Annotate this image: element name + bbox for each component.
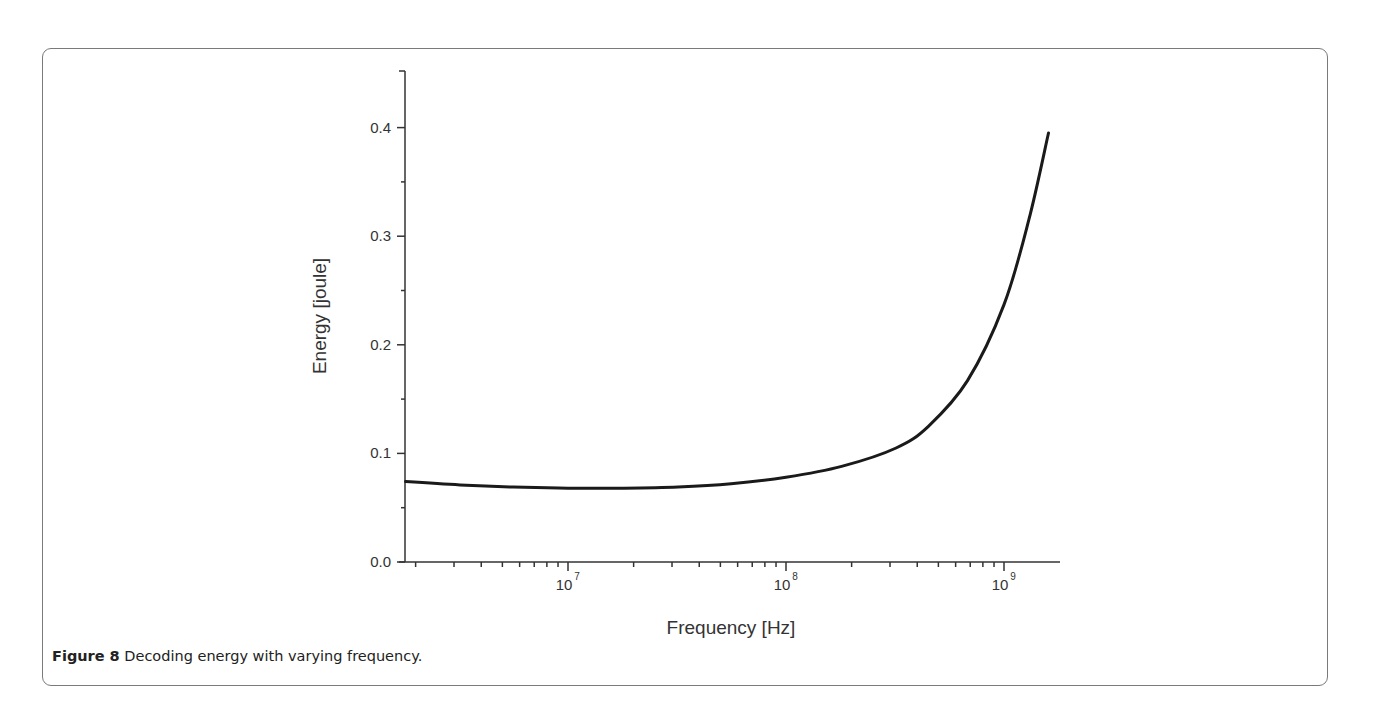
y-tick-label: 0.3 xyxy=(370,227,391,244)
x-tick-exponent: 7 xyxy=(574,571,580,582)
x-tick-label: 10 xyxy=(992,576,1009,593)
x-tick-label: 10 xyxy=(556,576,573,593)
y-tick-label: 0.0 xyxy=(370,553,391,570)
x-axis-title: Frequency [Hz] xyxy=(667,617,796,638)
figure-caption: Figure 8 Decoding energy with varying fr… xyxy=(52,648,422,664)
x-tick-exponent: 9 xyxy=(1010,571,1016,582)
caption-label: Figure 8 xyxy=(52,648,120,664)
y-tick-label: 0.1 xyxy=(370,444,391,461)
y-axis-title: Energy [joule] xyxy=(309,258,330,374)
x-tick-exponent: 8 xyxy=(792,571,798,582)
x-tick-label: 10 xyxy=(774,576,791,593)
caption-text: Decoding energy with varying frequency. xyxy=(120,648,423,664)
y-axis: 0.00.10.20.30.4 xyxy=(370,71,405,570)
energy-curve xyxy=(406,133,1049,488)
energy-frequency-chart: 0.00.10.20.30.4 107108109 Energy [joule]… xyxy=(0,0,1373,726)
y-tick-label: 0.2 xyxy=(370,336,391,353)
x-axis: 107108109 xyxy=(399,562,1060,593)
y-tick-label: 0.4 xyxy=(370,119,391,136)
